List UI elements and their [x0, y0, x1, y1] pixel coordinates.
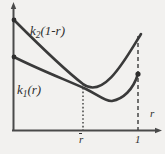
curve-label-k1-argument: (r): [27, 82, 41, 97]
marker-k2-start: [12, 18, 17, 23]
x-axis-label: r: [150, 108, 154, 119]
math-figure: k2(1-r) k1(r) r 1 r: [0, 0, 165, 154]
curve-label-k1: k1(r): [17, 83, 41, 99]
curve-label-k2: k2(1-r): [30, 24, 65, 40]
figure-canvas: [0, 0, 165, 154]
marker-k1-end: [135, 71, 140, 76]
x-tick-label-one: 1: [135, 134, 141, 145]
x-tick-label-rbar-text: r: [79, 134, 83, 145]
x-tick-label-rbar: r: [79, 134, 83, 145]
marker-k1-start: [12, 55, 17, 60]
curve-label-k2-argument: (1-r): [40, 23, 65, 38]
